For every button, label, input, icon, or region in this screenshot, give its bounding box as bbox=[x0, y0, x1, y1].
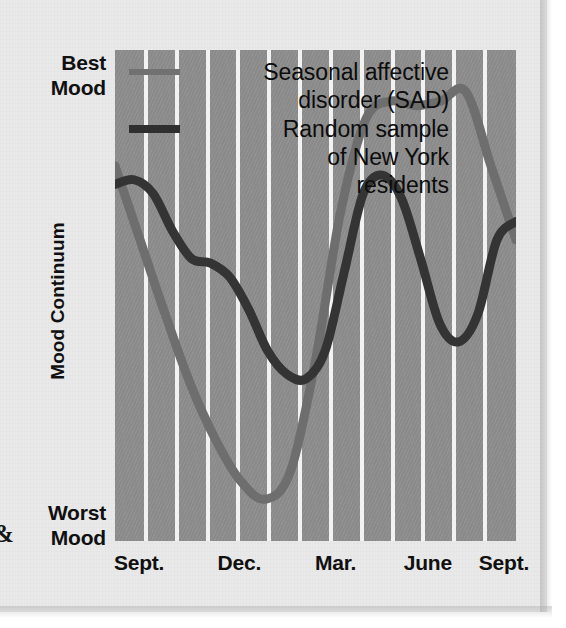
y-axis-title: Mood Continuum bbox=[47, 201, 69, 401]
x-axis-tick-3: June bbox=[404, 551, 452, 575]
x-axis-tick-4: Sept. bbox=[479, 551, 529, 575]
y-axis-bottom-label: Worst Mood bbox=[8, 500, 106, 550]
legend-swatch-seasonal-affective-disorder bbox=[129, 69, 180, 75]
x-axis-tick-2: Mar. bbox=[315, 551, 356, 575]
x-axis-tick-labels: Sept.Dec.Mar.JuneSept. bbox=[115, 551, 516, 585]
legend-label-seasonal-affective-disorder: Seasonal affectivedisorder (SAD) bbox=[197, 58, 449, 114]
x-axis-tick-0: Sept. bbox=[114, 551, 164, 575]
chart-legend: Seasonal affectivedisorder (SAD)Random s… bbox=[129, 58, 449, 200]
legend-swatch-random-sample bbox=[129, 125, 180, 133]
page-edge-shadow-right bbox=[540, 0, 552, 612]
legend-item-seasonal-affective-disorder: Seasonal affectivedisorder (SAD) bbox=[129, 58, 449, 114]
x-axis-tick-1: Dec. bbox=[218, 551, 262, 575]
legend-label-random-sample: Random sampleof New Yorkresidents bbox=[197, 115, 449, 199]
y-axis-top-label: Best Mood bbox=[8, 50, 106, 100]
scanned-page: & Best Mood Worst Mood Mood Continuum Se… bbox=[0, 0, 566, 628]
legend-item-random-sample: Random sampleof New Yorkresidents bbox=[129, 115, 449, 199]
page-edge-shadow-bottom bbox=[0, 606, 552, 618]
chart-plot-area: Seasonal affectivedisorder (SAD)Random s… bbox=[115, 50, 516, 541]
